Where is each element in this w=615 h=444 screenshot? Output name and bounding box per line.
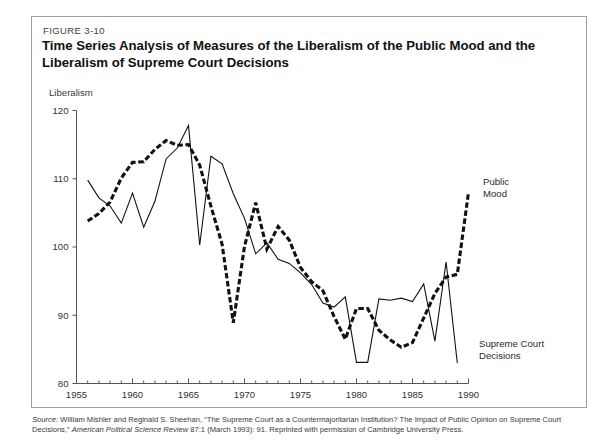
- svg-text:110: 110: [53, 173, 68, 184]
- source-label: Source:: [32, 415, 58, 424]
- series-path-public-mood: [88, 141, 469, 348]
- chart-area: 8090100110120195519601965197019751980198…: [0, 0, 615, 444]
- series-label-public-mood-line1: Public: [483, 176, 509, 188]
- svg-text:80: 80: [58, 378, 69, 389]
- source-note: Source: William Mishler and Reginald S. …: [32, 415, 584, 434]
- chart-tick-labels: 8090100110120195519601965197019751980198…: [52, 105, 479, 400]
- figure-page: FIGURE 3-10 Time Series Analysis of Meas…: [0, 0, 615, 444]
- svg-text:1980: 1980: [346, 389, 367, 400]
- chart-axes: [73, 111, 469, 384]
- series-label-supreme-court: Supreme Court Decisions: [479, 338, 544, 361]
- svg-text:1955: 1955: [66, 389, 87, 400]
- series-label-supreme-court-line2: Decisions: [479, 350, 544, 362]
- source-journal: American Political Science Review: [72, 425, 188, 434]
- svg-text:1990: 1990: [458, 389, 479, 400]
- source-line2-text: 87:1 (March 1993): 91. Reprinted with pe…: [188, 425, 463, 434]
- source-note-line2: American Political Science Review 87:1 (…: [72, 425, 464, 434]
- series-label-public-mood: Public Mood: [483, 176, 509, 199]
- svg-text:120: 120: [52, 105, 68, 116]
- svg-text:1970: 1970: [234, 389, 255, 400]
- svg-text:1975: 1975: [290, 389, 311, 400]
- svg-text:1960: 1960: [122, 389, 143, 400]
- svg-text:100: 100: [52, 241, 68, 252]
- chart-svg: 8090100110120195519601965197019751980198…: [0, 0, 615, 444]
- svg-text:90: 90: [58, 310, 69, 321]
- series-label-public-mood-line2: Mood: [483, 188, 509, 200]
- series-label-supreme-court-line1: Supreme Court: [479, 338, 544, 350]
- svg-text:1985: 1985: [402, 389, 423, 400]
- svg-text:1965: 1965: [178, 389, 199, 400]
- chart-series: [88, 126, 469, 364]
